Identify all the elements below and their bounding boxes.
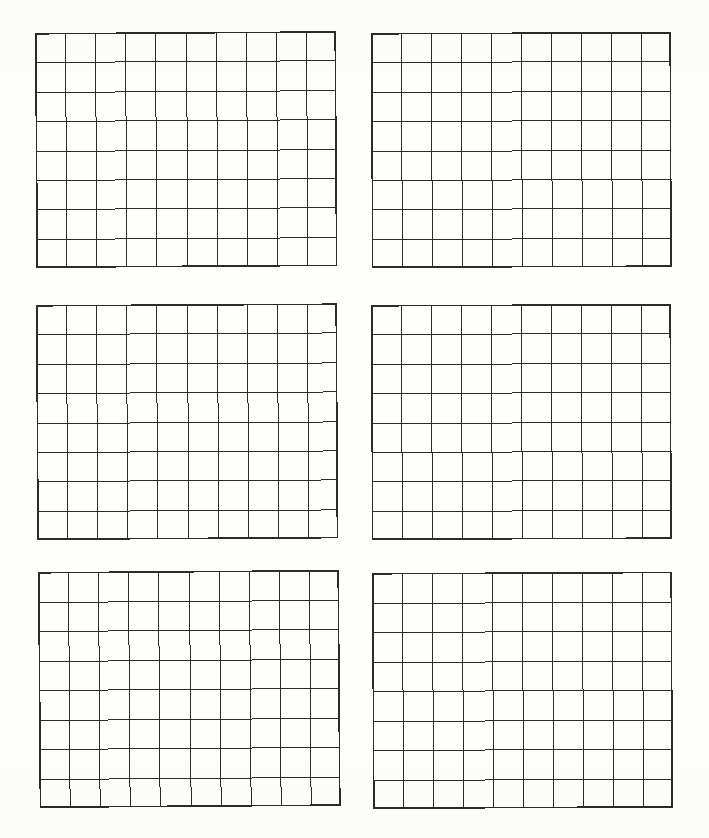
grid-row-divider <box>37 451 338 453</box>
grid-panel-2[interactable] <box>371 32 672 268</box>
grid-panel-3[interactable] <box>36 303 338 540</box>
grid-row-divider <box>371 333 671 334</box>
grid-panel-1[interactable] <box>35 31 337 268</box>
grid-column-divider <box>307 304 308 539</box>
grid-row-divider <box>372 238 672 239</box>
grid-column-divider <box>491 305 492 540</box>
grid-row-divider <box>38 600 339 602</box>
grid-column-divider <box>431 33 432 268</box>
grid-row-divider <box>373 779 673 780</box>
grid-column-divider <box>65 33 66 268</box>
grid-column-divider <box>641 32 642 267</box>
grid-row-divider <box>371 61 671 62</box>
grid-row-divider <box>372 480 672 481</box>
grid-row-divider <box>36 363 337 365</box>
grid-row-divider <box>371 363 671 364</box>
grid-row-divider <box>372 602 672 603</box>
grid-row-divider <box>36 238 337 240</box>
grid-row-divider <box>36 392 337 394</box>
grid-column-divider <box>186 32 187 267</box>
grid-row-divider <box>36 208 337 210</box>
grid-column-divider <box>125 32 126 267</box>
grid-row-divider <box>373 720 673 721</box>
grid-lines-3 <box>36 303 338 540</box>
grid-column-divider <box>461 33 462 268</box>
grid-column-divider <box>641 304 642 539</box>
grid-row-divider <box>372 451 672 452</box>
grid-row-divider <box>36 179 337 181</box>
grid-row-divider <box>36 333 337 335</box>
grid-row-divider <box>39 659 340 661</box>
grid-row-divider <box>39 718 340 720</box>
grid-column-divider <box>401 305 402 540</box>
worksheet-page <box>0 0 709 838</box>
grid-column-divider <box>521 32 522 267</box>
grid-row-divider <box>373 749 673 750</box>
grid-row-divider <box>35 91 336 93</box>
grid-lines-5 <box>38 570 341 808</box>
grid-column-divider <box>276 32 277 267</box>
grid-column-divider <box>66 305 67 540</box>
grid-column-divider <box>401 33 402 268</box>
grid-column-divider <box>96 305 97 540</box>
grid-column-divider <box>611 304 612 539</box>
grid-column-divider <box>246 32 247 267</box>
grid-row-divider <box>36 120 337 122</box>
grid-column-divider <box>461 305 462 540</box>
grid-column-divider <box>306 31 307 266</box>
grid-lines-1 <box>35 31 337 268</box>
grid-column-divider <box>521 304 522 539</box>
grid-row-divider <box>371 150 671 151</box>
grid-row-divider <box>372 179 672 180</box>
grid-row-divider <box>372 661 672 662</box>
grid-column-divider <box>155 32 156 267</box>
grid-column-divider <box>217 304 218 539</box>
grid-row-divider <box>37 422 338 424</box>
grid-row-divider <box>371 422 671 423</box>
grid-column-divider <box>581 32 582 267</box>
grid-column-divider <box>126 305 127 540</box>
grid-column-divider <box>187 304 188 539</box>
grid-lines-2 <box>371 32 672 268</box>
grid-column-divider <box>277 304 278 539</box>
grid-column-divider <box>216 32 217 267</box>
grid-lines-6 <box>372 572 673 809</box>
grid-column-divider <box>491 33 492 268</box>
grid-column-divider <box>431 305 432 540</box>
grid-column-divider <box>611 32 612 267</box>
grid-column-divider <box>156 304 157 539</box>
grid-column-divider <box>551 304 552 539</box>
grid-row-divider <box>39 688 340 690</box>
grid-panel-6[interactable] <box>372 572 673 809</box>
grid-lines-4 <box>371 304 672 540</box>
grid-column-divider <box>247 304 248 539</box>
grid-row-divider <box>39 777 340 779</box>
grid-row-divider <box>371 392 671 393</box>
grid-row-divider <box>371 120 671 121</box>
grid-panel-5[interactable] <box>38 570 341 808</box>
grid-column-divider <box>551 32 552 267</box>
grid-row-divider <box>372 208 672 209</box>
grid-row-divider <box>37 510 338 512</box>
grid-column-divider <box>95 33 96 268</box>
grid-row-divider <box>372 510 672 511</box>
grid-row-divider <box>35 61 336 63</box>
grid-column-divider <box>581 304 582 539</box>
grid-row-divider <box>39 747 340 749</box>
grid-row-divider <box>38 629 339 631</box>
grid-row-divider <box>36 150 337 152</box>
grid-row-divider <box>371 91 671 92</box>
grid-row-divider <box>373 690 673 691</box>
grid-panel-4[interactable] <box>371 304 672 540</box>
grid-row-divider <box>372 631 672 632</box>
grid-row-divider <box>37 480 338 482</box>
